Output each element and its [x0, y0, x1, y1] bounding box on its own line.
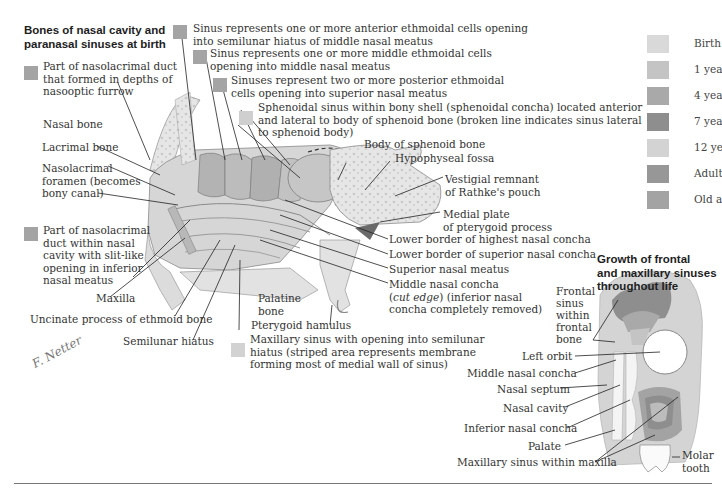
uncinate-label: Uncinate process of ethmoid bone: [30, 313, 212, 326]
posterior-ethmoidal-swatch: [213, 78, 227, 92]
lacrimal-bone-label: Lacrimal bone: [42, 141, 118, 154]
main-title: Bones of nasal cavity and paranasal sinu…: [24, 24, 166, 51]
middle-ethmoidal-swatch: [193, 50, 207, 64]
maxillary-sinus-swatch: [231, 343, 245, 357]
nasolacrimal-foramen-label: Nasolacrimal foramen (becomes bony canal…: [42, 162, 141, 200]
legend-swatch: [647, 165, 669, 183]
nasolacrimal-furrow-label: Part of nasolacrimal duct that formed in…: [43, 60, 177, 98]
bottom-divider: [14, 483, 712, 484]
anterior-ethmoidal-swatch: [173, 25, 187, 39]
nasolacrimal-cavity-swatch: [24, 227, 38, 241]
left-orbit-label: Left orbit: [522, 350, 572, 363]
middle-ethmoidal-label: Sinus represents one or more middle ethm…: [210, 47, 492, 72]
medial-plate-label: Medial plate of pterygoid process: [443, 208, 552, 233]
rathke-label: Vestigial remnant of Rathke's pouch: [445, 173, 541, 198]
inferior-concha-label: Inferior nasal concha: [464, 422, 577, 435]
semilunar-hiatus-label: Semilunar hiatus: [123, 335, 214, 348]
nasal-cavity-label: Nasal cavity: [503, 402, 568, 415]
body-sphenoid-label: Body of sphenoid bone: [364, 138, 485, 151]
palatine-bone-label: Palatine bone: [258, 292, 301, 317]
molar-label: Molar tooth: [682, 449, 714, 474]
lower-superior-concha-label: Lower border of superior nasal concha: [389, 248, 596, 261]
sphenoidal-label: Sphenoidal sinus within bony shell (sphe…: [258, 101, 642, 139]
hypophyseal-fossa-label: Hypophyseal fossa: [395, 152, 494, 165]
legend-swatch: [647, 191, 669, 209]
anterior-ethmoidal-label: Sinus represents one or more anterior et…: [193, 22, 528, 47]
nasal-septum-label: Nasal septum: [497, 383, 570, 396]
middle-nasal-concha-coronal-label: Middle nasal concha: [467, 367, 577, 380]
legend-swatch: [647, 61, 669, 79]
maxilla-label: Maxilla: [96, 292, 135, 305]
middle-concha-label: Middle nasal concha (cut edge) (inferior…: [389, 278, 542, 316]
frontal-sinus-label: Frontal sinus within frontal bone: [556, 285, 595, 345]
maxillary-within-label: Maxillary sinus within maxilla: [457, 456, 617, 469]
nasolacrimal-cavity-label: Part of nasolacrimal duct within nasal c…: [43, 224, 150, 287]
maxillary-sinus-label: Maxillary sinus with opening into semilu…: [250, 333, 485, 371]
nasal-bone-label: Nasal bone: [43, 118, 103, 131]
palate-label: Palate: [528, 440, 561, 453]
coronal-section: [598, 271, 703, 472]
nasolacrimal-furrow-swatch: [24, 66, 38, 80]
legend-swatch: [647, 35, 669, 53]
legend-swatch: [647, 139, 669, 157]
superior-meatus-label: Superior nasal meatus: [389, 263, 509, 276]
legend-swatch: [647, 87, 669, 105]
posterior-ethmoidal-label: Sinuses represent two or more posterior …: [231, 74, 504, 99]
legend-swatch: [647, 113, 669, 131]
growth-title: Growth of frontal and maxillary sinuses …: [597, 253, 717, 294]
lower-highest-concha-label: Lower border of highest nasal concha: [389, 233, 591, 246]
pterygoid-hamulus-label: Pterygoid hamulus: [251, 319, 351, 332]
sphenoidal-swatch: [239, 111, 253, 125]
